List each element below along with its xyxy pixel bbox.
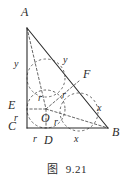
radius-OE-length: r [38, 93, 42, 103]
caption-prefix: 图 [47, 163, 59, 175]
figure-caption: 图9.21 [0, 160, 134, 176]
side-FB-length: x [97, 103, 101, 113]
side-CE-length: r [14, 113, 18, 123]
vertex-label-E: E [8, 99, 15, 111]
vertex-label-B: B [112, 126, 119, 138]
side-DB-length: x [74, 134, 78, 144]
side-AE-length: y [14, 59, 18, 69]
side-AF-length: y [63, 55, 67, 65]
radius-OF-length: r [62, 90, 66, 100]
figure-canvas [0, 0, 134, 186]
vertex-label-F: F [83, 68, 90, 80]
vertex-label-D: D [44, 134, 53, 146]
vertex-label-O: O [41, 112, 50, 124]
vertex-label-A: A [21, 6, 28, 18]
arc-A-construction [27, 59, 65, 97]
side-CD-length: r [33, 134, 37, 144]
caption-number: 9.21 [66, 163, 87, 175]
radius-OD-length: r [54, 117, 58, 127]
geometry-figure: A B C D E F O yyxxrrrrr 图9.21 [0, 0, 134, 186]
